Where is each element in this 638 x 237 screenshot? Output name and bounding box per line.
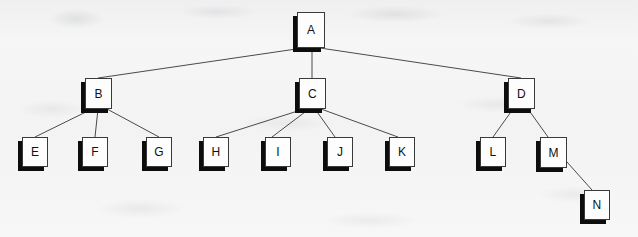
tree-node-label-d: D [517, 88, 526, 100]
tree-node-n[interactable]: N [584, 190, 610, 220]
tree-node-label-l: L [490, 146, 497, 158]
tree-node-label-c: C [308, 88, 317, 100]
tree-node-label-g: G [154, 146, 164, 158]
tree-node-label-n: N [593, 199, 602, 211]
tree-diagram-canvas: ABCDEFGHIJKLMN [0, 0, 638, 237]
tree-node-label-k: K [398, 146, 406, 158]
tree-node-j[interactable]: J [327, 137, 353, 167]
tree-node-l[interactable]: L [480, 137, 506, 167]
tree-edge-a-d [320, 48, 521, 78]
tree-node-c[interactable]: C [299, 78, 326, 109]
tree-node-d[interactable]: D [508, 78, 535, 109]
tree-node-label-b: B [94, 88, 102, 100]
tree-node-f[interactable]: F [82, 137, 108, 167]
tree-node-label-h: H [212, 146, 221, 158]
tree-node-label-j: J [337, 146, 343, 158]
tree-node-h[interactable]: H [203, 137, 229, 167]
tree-node-label-f: F [91, 146, 99, 158]
tree-node-k[interactable]: K [389, 137, 415, 167]
tree-node-b[interactable]: B [85, 78, 112, 109]
tree-edge-m-n [567, 162, 592, 190]
tree-node-label-a: A [307, 24, 315, 36]
tree-node-m[interactable]: M [540, 137, 567, 168]
tree-node-label-m: M [548, 147, 558, 159]
tree-edge-b-e [35, 109, 92, 137]
tree-edge-b-g [107, 109, 159, 137]
tree-node-label-e: E [31, 146, 39, 158]
tree-edge-b-f [95, 109, 98, 137]
tree-node-a[interactable]: A [297, 12, 325, 48]
tree-edge-d-l [493, 109, 513, 137]
tree-node-i[interactable]: I [265, 137, 291, 167]
tree-node-e[interactable]: E [22, 137, 48, 167]
tree-node-g[interactable]: G [146, 137, 172, 167]
tree-edge-d-m [528, 109, 548, 137]
tree-edge-a-b [98, 48, 303, 78]
tree-node-label-i: I [276, 146, 280, 158]
